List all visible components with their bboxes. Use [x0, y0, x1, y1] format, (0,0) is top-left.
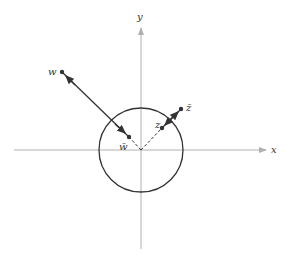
x-axis-label: x: [271, 144, 277, 155]
arrow-toward-w: [66, 76, 75, 85]
arrow-toward-wbar: [115, 124, 125, 133]
point-z-bar: [179, 107, 183, 111]
point-w-bar: [127, 135, 131, 139]
point-w: [60, 70, 64, 74]
point-z: [160, 126, 164, 130]
axes: x y: [14, 11, 277, 249]
y-axis-label: y: [136, 11, 143, 22]
label-w: w: [48, 66, 57, 77]
label-w-bar: w̄: [119, 141, 128, 152]
dashed-origin-to-z: [141, 128, 162, 150]
dashed-origin-to-wbar: [129, 137, 141, 150]
label-z: z: [154, 119, 161, 130]
diagram-canvas: x y w w̄ z z̄: [0, 0, 293, 257]
label-z-bar: z̄: [185, 102, 192, 113]
